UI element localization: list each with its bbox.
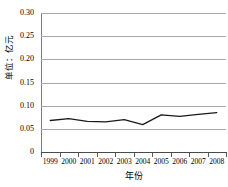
y-axis-tick-label: 0.05: [2, 125, 34, 133]
y-axis-tick-label: 0.20: [2, 55, 34, 63]
plot-area: [41, 13, 226, 152]
gridline: [41, 36, 226, 37]
gridline: [41, 83, 226, 84]
y-axis-tick-label: 0.10: [2, 102, 34, 110]
gridline: [41, 129, 226, 130]
x-axis-title: 年份: [41, 171, 226, 182]
data-line: [50, 113, 217, 125]
y-axis-tick-labels: 00.050.100.150.200.250.30: [2, 7, 34, 159]
gridline: [41, 13, 226, 14]
y-axis-tick-label: 0.30: [2, 9, 34, 17]
gridline: [41, 59, 226, 60]
x-axis-tick-labels: 1999200020012002200320042005200620072008: [41, 157, 226, 168]
y-axis-tick-label: 0.25: [2, 32, 34, 40]
line-chart: 单位：亿元 00.050.100.150.200.250.30 19992000…: [0, 0, 228, 187]
y-axis-tick-label: 0.15: [2, 79, 34, 87]
y-axis-tick-label: 0: [2, 148, 34, 156]
x-axis-tick-label: 2008: [205, 157, 228, 166]
gridline: [41, 106, 226, 107]
